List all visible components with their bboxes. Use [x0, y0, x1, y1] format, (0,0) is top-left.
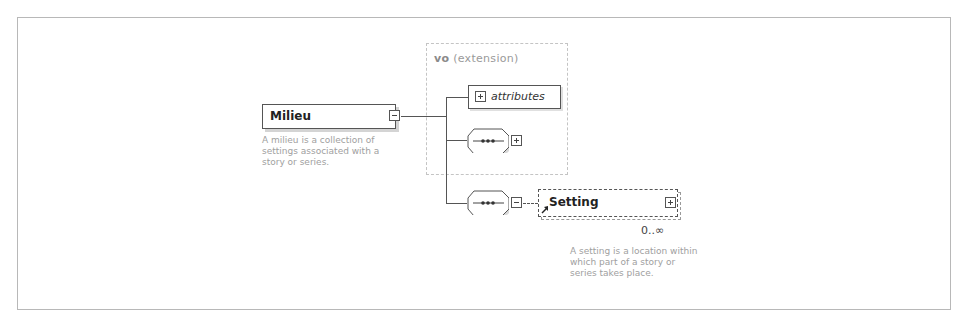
description-line: which part of a story or — [570, 257, 697, 268]
connector-root — [401, 116, 446, 117]
description-line: settings associated with a — [262, 146, 379, 157]
extension-type: (extension) — [453, 52, 519, 65]
expand-icon[interactable] — [475, 91, 486, 102]
description-line: story or series. — [262, 157, 379, 168]
occurrence-label: 0..∞ — [641, 224, 664, 237]
description-line: series takes place. — [570, 268, 697, 279]
reference-arrow-icon — [540, 205, 550, 215]
element-milieu-description: A milieu is a collection of settings ass… — [262, 135, 379, 168]
expand-icon[interactable] — [665, 197, 676, 208]
description-line: A milieu is a collection of — [262, 135, 379, 146]
description-line: A setting is a location within — [570, 246, 697, 257]
expand-icon[interactable] — [511, 135, 522, 146]
collapse-icon[interactable] — [389, 110, 400, 121]
element-setting-name: Setting — [549, 195, 599, 209]
extension-prefix: vo — [434, 52, 449, 65]
connector-trunk — [446, 97, 447, 204]
connector-sequence-1 — [446, 140, 467, 141]
collapse-icon[interactable] — [511, 197, 522, 208]
element-setting-description: A setting is a location within which par… — [570, 246, 697, 279]
connector-setting — [523, 203, 538, 204]
element-milieu-name: Milieu — [270, 109, 311, 123]
extension-label: vo (extension) — [434, 52, 519, 65]
sequence-icon[interactable] — [467, 128, 509, 153]
connector-sequence-2 — [446, 203, 467, 204]
attributes-label: attributes — [491, 90, 545, 103]
sequence-icon[interactable] — [467, 190, 509, 215]
connector-attributes — [446, 97, 468, 98]
